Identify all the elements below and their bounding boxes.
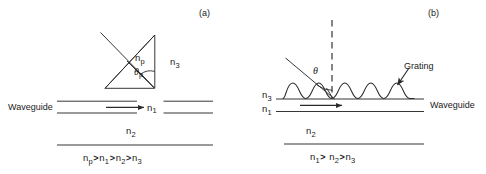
caption-b-term-0: n1 xyxy=(310,151,320,162)
figure-line-art xyxy=(0,0,486,174)
caption-a-term-2: n2 xyxy=(116,152,126,163)
waveguide-label-b: Waveguide xyxy=(430,101,475,110)
caption-b-term-1: n2 xyxy=(326,151,339,162)
caption-a-term-0: np xyxy=(83,152,93,163)
panel-b-artwork xyxy=(276,20,424,144)
panel-b-label: (b) xyxy=(428,8,439,18)
panel-b-caption: n1> n2>n3 xyxy=(310,152,355,162)
incident-ray-a xyxy=(101,33,155,88)
prism-index-label: np xyxy=(135,53,144,63)
grating-label: Grating xyxy=(404,62,434,71)
caption-a-term-3: n3 xyxy=(132,152,142,163)
grating-corrugation xyxy=(283,83,414,98)
film-index-label-a: n1 xyxy=(147,103,156,113)
caption-a-op-1: > xyxy=(109,153,115,163)
caption-a-term-1: n1 xyxy=(99,152,109,163)
theta-p-label: θp xyxy=(134,67,143,77)
caption-b-term-2: n3 xyxy=(346,151,356,162)
cover-index-label-a: n3 xyxy=(170,57,179,67)
caption-b-op-1: > xyxy=(339,152,345,162)
cover-index-label-b: n3 xyxy=(262,90,271,100)
substrate-index-label-a: n2 xyxy=(126,126,135,136)
incident-ray-b xyxy=(286,58,335,99)
theta-label-b: θ xyxy=(313,66,318,76)
figure-root: (a) np θp n3 Waveguide n1 n2 np>n1>n2>n3… xyxy=(0,0,486,174)
caption-a-op-2: > xyxy=(126,153,132,163)
film-index-label-b: n1 xyxy=(262,104,271,114)
panel-a-caption: np>n1>n2>n3 xyxy=(83,153,142,163)
panel-a-label: (a) xyxy=(199,8,210,18)
waveguide-label-a: Waveguide xyxy=(8,103,53,112)
substrate-index-label-b: n2 xyxy=(306,126,315,136)
